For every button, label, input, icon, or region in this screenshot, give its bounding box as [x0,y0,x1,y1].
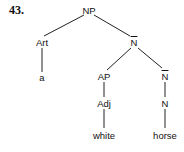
edge-np-art [44,15,84,36]
node-nbar-upper: N [131,38,138,48]
edge-np-nbar [94,15,130,36]
node-n: N [162,99,169,109]
node-np: NP [82,6,95,16]
node-white: white [93,131,115,141]
node-a: a [39,73,44,83]
edge-nbar-ap [107,48,131,70]
node-adj: Adj [97,99,111,109]
node-ap: AP [98,72,111,82]
edge-nbar-nbar [138,48,162,68]
node-horse: horse [153,131,177,141]
node-nbar-lower: N [162,72,169,82]
node-art: Art [36,38,48,48]
